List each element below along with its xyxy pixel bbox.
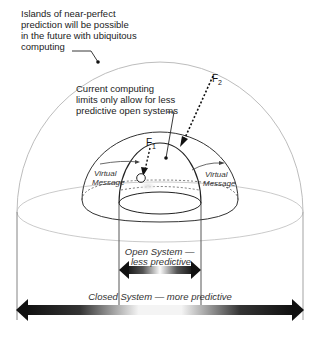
particle — [137, 174, 158, 192]
force-f2-arrow — [180, 76, 213, 147]
predictability-diagram: Islands of near-perfect prediction will … — [0, 0, 320, 337]
virtual-message-right-label: Virtual Message — [203, 170, 236, 188]
virtual-message-arrow-right — [192, 161, 225, 170]
closed-system-arrow — [16, 299, 304, 321]
closed-system-label: Closed System — more predictive — [88, 291, 232, 302]
inner-note-leader — [164, 112, 174, 160]
force-f2-label: F2 — [212, 73, 222, 86]
open-system-label: Open System — less predictive — [125, 246, 197, 267]
virtual-message-arrow-left — [100, 160, 140, 164]
virtual-message-left-label: Virtual Message — [92, 169, 125, 187]
outer-note-leader — [72, 51, 100, 64]
inner-note-text: Current computing limits only allow for … — [76, 83, 178, 116]
outer-note-text: Islands of near-perfect prediction will … — [21, 8, 139, 52]
force-f1-arrow — [141, 148, 150, 176]
force-f1-label: F1 — [146, 137, 156, 150]
inner-dome — [119, 143, 201, 305]
